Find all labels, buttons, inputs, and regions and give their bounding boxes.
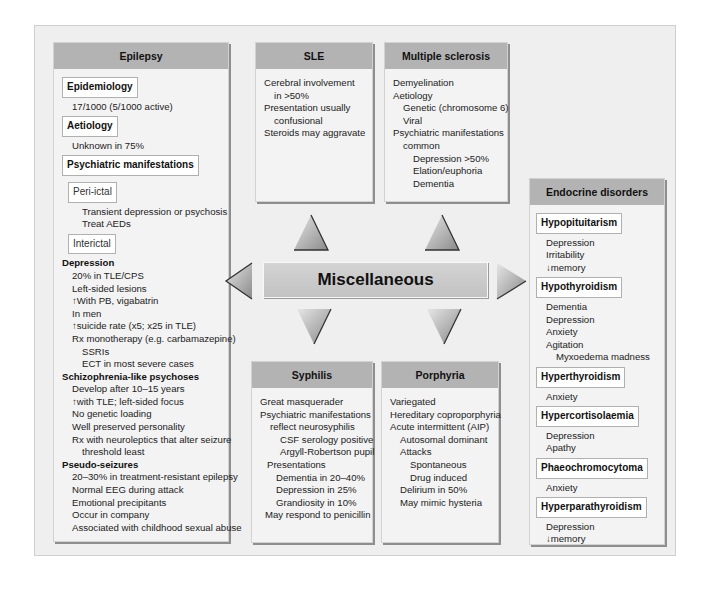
right-arrow-icon — [495, 260, 529, 302]
left-arrow-icon — [224, 260, 256, 302]
text-line: Myxoedema madness — [536, 351, 658, 364]
text-line: ↓memory — [536, 533, 658, 546]
up-arrow-icon — [292, 213, 330, 253]
text-line: Anxiety — [536, 482, 658, 495]
tag-phaeochromocytoma: Phaeochromocytoma — [536, 458, 648, 479]
text-line: May respond to penicillin — [260, 509, 364, 522]
text-line: SSRIs — [62, 346, 220, 359]
text-line: Presentations — [260, 459, 364, 472]
syphilis-box: Syphilis Great masquerader Psychiatric m… — [251, 361, 373, 543]
text-line: Dementia — [536, 301, 658, 314]
text-line: Rx monotherapy (e.g. carbamazepine) — [62, 333, 220, 346]
text-line: No genetic loading — [62, 408, 220, 421]
text-line: Depression — [536, 430, 658, 443]
porphyria-box: Porphyria Variegated Hereditary copropor… — [381, 361, 499, 543]
text-line: Unknown in 75% — [62, 140, 220, 153]
text-line: common — [393, 140, 499, 153]
text-line: Aetiology — [393, 90, 499, 103]
text-line: Grandiosity in 10% — [260, 497, 364, 510]
ms-box: Multiple sclerosis Demyelination Aetiolo… — [384, 42, 508, 202]
up-arrow-icon — [423, 213, 461, 253]
tag-hypopituitarism: Hypopituitarism — [536, 213, 622, 234]
text-line: Cerebral involvement — [264, 77, 364, 90]
text-line: Emotional precipitants — [62, 497, 220, 510]
text-line: reflect neurosyphilis — [260, 421, 364, 434]
text-line: Anxiety — [536, 391, 658, 404]
text-line: Associated with childhood sexual abuse — [62, 522, 220, 535]
tag-epidemiology: Epidemiology — [62, 77, 138, 98]
text-line: Hereditary coproporphyria — [390, 409, 490, 422]
text-line: Spontaneous — [390, 459, 490, 472]
text-line: Transient depression or psychosis — [62, 206, 220, 219]
tag-hyperthyroidism: Hyperthyroidism — [536, 367, 625, 388]
text-line: Steroids may aggravate — [264, 127, 364, 140]
text-line: Occur in company — [62, 509, 220, 522]
endocrine-title: Endocrine disorders — [530, 179, 664, 205]
text-line: Depression — [536, 314, 658, 327]
text-line: Normal EEG during attack — [62, 484, 220, 497]
text-line: ↑with TLE; left-sided focus — [62, 396, 220, 409]
sle-title: SLE — [256, 43, 372, 69]
text-line: Depression in 25% — [260, 484, 364, 497]
heading-depression: Depression — [62, 257, 220, 270]
text-line: Psychiatric manifestations — [260, 409, 364, 422]
endocrine-box: Endocrine disorders Hypopituitarism Depr… — [529, 178, 665, 545]
text-line: Rx with neuroleptics that alter seizure — [62, 434, 220, 447]
tag-periictal: Peri-ictal — [68, 182, 117, 203]
text-line: Well preserved personality — [62, 421, 220, 434]
text-line: Depression — [536, 237, 658, 250]
porphyria-title: Porphyria — [382, 362, 498, 388]
text-line: Develop after 10–15 years — [62, 383, 220, 396]
down-arrow-icon — [295, 307, 333, 347]
text-line: CSF serology positive — [260, 434, 364, 447]
text-line: 20% in TLE/CPS — [62, 270, 220, 283]
text-line: Psychiatric manifestations — [393, 127, 499, 140]
tag-hyperparathyroidism: Hyperparathyroidism — [536, 497, 647, 518]
text-line: Depression — [536, 521, 658, 534]
text-line: Treat AEDs — [62, 218, 220, 231]
syphilis-title: Syphilis — [252, 362, 372, 388]
text-line: Apathy — [536, 442, 658, 455]
text-line: ECT in most severe cases — [62, 358, 220, 371]
text-line: Autosomal dominant — [390, 434, 490, 447]
text-line: Left-sided lesions — [62, 283, 220, 296]
text-line: Elation/euphoria — [393, 165, 499, 178]
text-line: Attacks — [390, 446, 490, 459]
text-line: In men — [62, 308, 220, 321]
text-line: Dementia — [393, 178, 499, 191]
text-line: Variegated — [390, 396, 490, 409]
text-line: Demyelination — [393, 77, 499, 90]
text-line: 20–30% in treatment-resistant epilepsy — [62, 471, 220, 484]
heading-schizophrenia: Schizophrenia-like psychoses — [62, 371, 220, 384]
center-title: Miscellaneous — [263, 262, 488, 298]
text-line: Depression >50% — [393, 153, 499, 166]
epilepsy-title: Epilepsy — [54, 43, 228, 69]
text-line: ↓memory — [536, 262, 658, 275]
text-line: Acute intermittent (AIP) — [390, 421, 490, 434]
text-line: threshold least — [62, 446, 220, 459]
text-line: Genetic (chromosome 6) — [393, 102, 499, 115]
text-line: Irritability — [536, 249, 658, 262]
tag-aetiology: Aetiology — [62, 116, 118, 137]
text-line: ↑With PB, vigabatrin — [62, 295, 220, 308]
text-line: Argyll-Robertson pupil — [260, 446, 364, 459]
text-line: Great masquerader — [260, 396, 364, 409]
tag-hypothyroidism: Hypothyroidism — [536, 277, 622, 298]
text-line: 17/1000 (5/1000 active) — [62, 101, 220, 114]
ms-title: Multiple sclerosis — [385, 43, 507, 69]
text-line: ↑suicide rate (x5; x25 in TLE) — [62, 320, 220, 333]
text-line: Anxiety — [536, 326, 658, 339]
text-line: Dementia in 20–40% — [260, 472, 364, 485]
text-line: Delirium in 50% — [390, 484, 490, 497]
text-line: in >50% — [264, 90, 364, 103]
text-line: Viral — [393, 115, 499, 128]
tag-hypercortisolaemia: Hypercortisolaemia — [536, 406, 639, 427]
down-arrow-icon — [425, 307, 463, 347]
epilepsy-box: Epilepsy Epidemiology 17/1000 (5/1000 ac… — [53, 42, 229, 542]
sle-box: SLE Cerebral involvement in >50% Present… — [255, 42, 373, 202]
text-line: Drug induced — [390, 472, 490, 485]
tag-psychiatric: Psychiatric manifestations — [62, 155, 199, 176]
text-line: Presentation usually — [264, 102, 364, 115]
tag-interictal: Interictal — [68, 234, 116, 255]
heading-pseudo-seizures: Pseudo-seizures — [62, 459, 220, 472]
